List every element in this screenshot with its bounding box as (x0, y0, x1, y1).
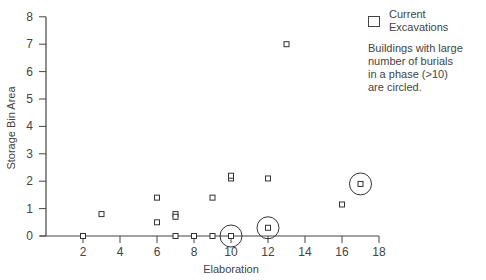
x-tick-label: 2 (80, 245, 87, 259)
y-tick-label: 5 (26, 92, 33, 106)
open-square-marker (358, 181, 363, 186)
x-tick-label: 6 (154, 245, 161, 259)
axes: 01234567824681012141618 (26, 10, 386, 259)
note-line: are circled. (368, 81, 486, 94)
open-square-marker (284, 42, 289, 47)
y-tick-label: 3 (26, 147, 33, 161)
y-tick-label: 4 (26, 119, 33, 133)
legend-item-current-excavations: Current Excavations (368, 8, 486, 34)
x-axis-label: Elaboration (203, 263, 259, 275)
open-square-marker (229, 173, 234, 178)
open-square-marker (155, 220, 160, 225)
note-line: in a phase (>10) (368, 68, 486, 81)
open-square-marker (229, 234, 234, 239)
x-tick-label: 14 (298, 245, 312, 259)
legend-label: Current Excavations (389, 8, 486, 34)
open-square-marker (266, 225, 271, 230)
x-tick-label: 16 (335, 245, 349, 259)
open-square-marker (173, 234, 178, 239)
x-tick-label: 8 (191, 245, 198, 259)
y-tick-label: 0 (26, 229, 33, 243)
y-tick-label: 1 (26, 202, 33, 216)
open-square-marker (210, 234, 215, 239)
open-square-marker-icon (368, 16, 380, 27)
legend: Current Excavations Buildings with large… (368, 8, 486, 94)
open-square-marker (192, 234, 197, 239)
note-line: number of burials (368, 55, 486, 68)
y-tick-label: 7 (26, 37, 33, 51)
y-tick-label: 8 (26, 10, 33, 24)
legend-note: Buildings with large number of burials i… (368, 42, 486, 94)
open-square-marker (99, 212, 104, 217)
y-tick-label: 6 (26, 65, 33, 79)
data-points (81, 42, 372, 247)
open-square-marker (266, 176, 271, 181)
y-tick-label: 2 (26, 174, 33, 188)
open-square-marker (210, 195, 215, 200)
x-tick-label: 4 (117, 245, 124, 259)
open-square-marker (81, 234, 86, 239)
open-square-marker (173, 214, 178, 219)
open-square-marker (155, 195, 160, 200)
x-tick-label: 12 (261, 245, 275, 259)
y-axis-label: Storage Bin Area (5, 86, 17, 170)
note-line: Buildings with large (368, 42, 486, 55)
open-square-marker (340, 202, 345, 207)
x-tick-label: 18 (372, 245, 386, 259)
